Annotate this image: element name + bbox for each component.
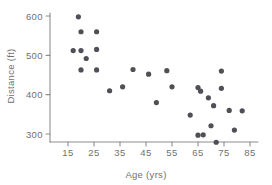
y-tick-label: 400 <box>26 89 43 100</box>
data-point <box>78 48 83 53</box>
plot-canvas: 300400500600 1525354555657585 Age (yrs) … <box>0 0 272 185</box>
data-points-group <box>71 14 245 145</box>
scatter-plot-figure: 300400500600 1525354555657585 Age (yrs) … <box>0 0 272 185</box>
data-point <box>219 68 224 73</box>
data-point <box>146 72 151 77</box>
y-axis-ticks: 300400500600 <box>26 11 50 140</box>
data-point <box>227 108 232 113</box>
data-point <box>208 123 213 128</box>
data-point <box>195 133 200 138</box>
data-point <box>94 67 99 72</box>
x-tick-label: 85 <box>244 147 255 158</box>
x-tick-label: 75 <box>218 147 229 158</box>
data-point <box>154 100 159 105</box>
data-point <box>219 86 224 91</box>
data-point <box>71 48 76 53</box>
x-tick-label: 35 <box>114 147 125 158</box>
data-point <box>198 89 203 94</box>
data-point <box>240 108 245 113</box>
y-tick-label: 600 <box>26 11 43 22</box>
x-tick-label: 65 <box>192 147 203 158</box>
data-point <box>206 95 211 100</box>
data-point <box>94 47 99 52</box>
data-point <box>232 127 237 132</box>
data-point <box>120 84 125 89</box>
data-point <box>94 29 99 34</box>
x-axis-ticks: 1525354555657585 <box>62 142 255 158</box>
data-point <box>164 68 169 73</box>
data-point <box>211 103 216 108</box>
x-tick-label: 55 <box>166 147 177 158</box>
data-point <box>188 113 193 118</box>
data-point <box>78 29 83 34</box>
y-axis-title: Distance (ft) <box>5 48 16 103</box>
y-tick-label: 500 <box>26 50 43 61</box>
data-point <box>78 67 83 72</box>
x-axis-title: Age (yrs) <box>125 169 166 180</box>
x-tick-label: 25 <box>88 147 99 158</box>
data-point <box>84 56 89 61</box>
data-point <box>169 84 174 89</box>
x-tick-label: 15 <box>62 147 73 158</box>
data-point <box>201 132 206 137</box>
data-point <box>214 140 219 145</box>
data-point <box>76 14 81 19</box>
data-point <box>130 67 135 72</box>
data-point <box>107 88 112 93</box>
y-tick-label: 300 <box>26 129 43 140</box>
x-tick-label: 45 <box>140 147 151 158</box>
